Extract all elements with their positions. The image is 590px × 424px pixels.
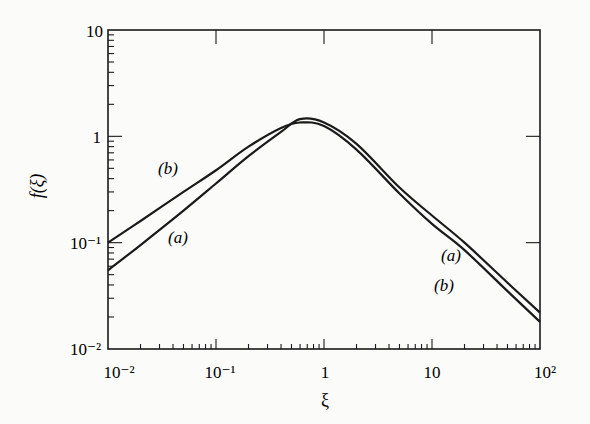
curve-label-b-left: (b) <box>158 159 178 178</box>
curve-label-a-left: (a) <box>168 228 188 247</box>
y-tick-label: 10⁻² <box>70 340 101 359</box>
curve-label-b-right: (b) <box>434 276 454 295</box>
y-tick-label: 10 <box>86 22 103 41</box>
x-tick-label: 10² <box>534 363 556 382</box>
x-tick-labels: 10⁻² 10⁻¹ 1 10 10² <box>103 363 556 382</box>
y-tick-labels: 10⁻² 10⁻¹ 1 10 <box>70 22 103 359</box>
y-tick-label: 10⁻¹ <box>70 234 101 253</box>
x-tick-label: 10⁻¹ <box>204 363 235 382</box>
curve-label-a-right: (a) <box>441 246 461 265</box>
plot-frame <box>108 30 540 349</box>
curves <box>108 118 540 321</box>
x-axis-title: ξ <box>321 390 329 410</box>
curve-b <box>108 122 540 322</box>
axis-ticks <box>108 30 540 349</box>
x-tick-label: 10⁻² <box>103 363 134 382</box>
y-tick-label: 1 <box>93 128 102 147</box>
log-log-chart: 10⁻² 10⁻¹ 1 10 10² 10⁻² 10⁻¹ 1 10 ξ f(ξ)… <box>0 0 590 424</box>
x-tick-label: 1 <box>321 363 330 382</box>
x-tick-label: 10 <box>424 363 441 382</box>
y-axis-title: f(ξ) <box>27 174 48 199</box>
curve-a <box>108 118 540 312</box>
